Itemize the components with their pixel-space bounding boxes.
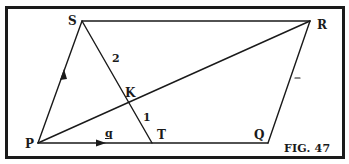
diagram-figure: S R P T Q K 2 1 q FIG. 47 [0, 0, 349, 164]
arrow-head-PS-icon [60, 69, 67, 80]
point-label-P: P [25, 138, 34, 150]
ratio-label-KT: 1 [143, 112, 151, 123]
vector-label-q: q [105, 128, 113, 139]
point-label-T: T [157, 129, 166, 141]
segment-PR [38, 21, 310, 143]
geometry-lines [0, 0, 349, 164]
point-label-R: R [317, 19, 327, 31]
arrow-head-PT-icon [96, 140, 106, 147]
segment-ST [82, 21, 152, 143]
segment-PS [38, 21, 82, 143]
figure-caption: FIG. 47 [284, 143, 330, 154]
segment-RQ [268, 21, 310, 143]
point-label-K: K [125, 87, 135, 99]
ratio-label-SK: 2 [112, 53, 120, 64]
point-label-Q: Q [254, 129, 264, 141]
point-label-S: S [68, 15, 77, 27]
